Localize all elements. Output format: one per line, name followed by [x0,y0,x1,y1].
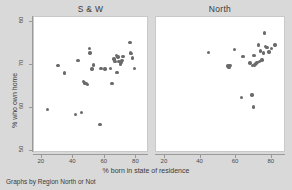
panel-1-points [34,17,147,151]
data-point [250,93,253,96]
panel-1-x-tick-label: 60 [96,158,112,164]
panel-1-x-tick-label: 40 [64,158,80,164]
data-point [74,113,77,116]
data-point [265,46,268,49]
y-tick [29,107,32,108]
y-tick-label: 60 [18,99,24,113]
data-point [228,64,231,67]
data-point [257,43,260,46]
data-point [267,50,270,53]
y-tick [29,150,32,151]
panel-1-x-tick-label: 20 [33,158,49,164]
data-point [263,31,266,34]
data-point [241,55,244,58]
data-point [103,67,106,70]
data-point [46,108,49,111]
data-point [98,123,101,126]
data-point [110,82,113,85]
data-point [252,105,255,108]
data-point [116,55,119,58]
data-point [90,67,93,70]
panel-2-x-tick-label: 20 [156,158,172,164]
data-point [113,60,116,63]
data-point [240,96,243,99]
data-point [99,67,102,70]
data-point [88,51,91,54]
data-point [131,56,134,59]
chart-figure: 50607080% who own homeS & W20406080North… [0,0,292,190]
data-point [86,83,89,86]
data-point [115,71,118,74]
y-tick [29,21,32,22]
data-point [260,58,263,61]
data-point [262,51,265,54]
panel-2-x-tick-label: 80 [263,158,279,164]
data-point [109,67,112,70]
data-point [252,54,255,57]
data-point [133,67,136,70]
panel-1-title: S & W [33,4,148,14]
data-point [270,47,273,50]
data-point [207,51,210,54]
panel-2-points [156,17,284,151]
data-point [233,48,236,51]
y-tick-label: 70 [18,56,24,70]
data-point [273,43,276,46]
graph-note: Graphs by Region North or Not [6,178,96,185]
y-tick-label: 50 [18,142,24,156]
y-tick [29,64,32,65]
x-axis-title: % born in state of residence [0,167,292,174]
data-point [63,71,66,74]
panel-1-x-tick-label: 80 [127,158,143,164]
data-point [80,111,83,114]
data-point [76,59,79,62]
y-tick-label: 80 [18,13,24,27]
panel-2-x-tick-label: 40 [192,158,208,164]
data-point [120,59,123,62]
panel-1-x-axis-line [33,154,148,155]
data-point [130,52,133,55]
panel-2-x-tick-label: 60 [227,158,243,164]
data-point [88,47,91,50]
y-axis-title: % who own home [11,73,18,128]
data-point [92,63,95,66]
panel-2-x-axis-line [155,154,285,155]
panel-2-title: North [155,4,285,14]
data-point [56,64,59,67]
data-point [128,41,131,44]
data-point [121,55,124,58]
